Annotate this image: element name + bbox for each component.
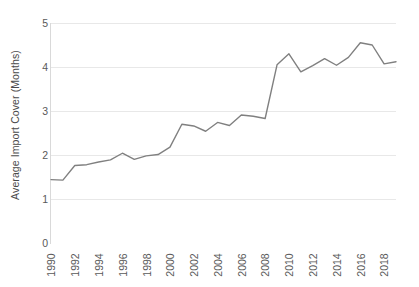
y-axis-tick-label: 3 bbox=[26, 105, 48, 117]
x-axis-tick-label: 1990 bbox=[45, 253, 57, 276]
x-axis-tick: 2006 bbox=[234, 246, 248, 286]
x-axis-tick-label: 2012 bbox=[307, 253, 319, 276]
x-axis-tick-label: 2008 bbox=[259, 253, 271, 276]
x-axis-tick: 1994 bbox=[92, 246, 106, 286]
x-axis-tick-label: 2004 bbox=[212, 253, 224, 276]
x-axis-tick-label: 2014 bbox=[331, 253, 343, 276]
x-axis-tick: 1996 bbox=[115, 246, 129, 286]
x-axis-tick-label: 2000 bbox=[164, 253, 176, 276]
x-axis-tick-label: 2006 bbox=[235, 253, 247, 276]
y-axis-tick-label: 5 bbox=[26, 17, 48, 29]
y-axis-tick-labels: 012345 bbox=[26, 0, 48, 260]
x-axis-tick-label: 2018 bbox=[378, 253, 390, 276]
y-axis-title-label: Average Import Cover (Months) bbox=[9, 50, 21, 200]
x-axis-tick: 2000 bbox=[163, 246, 177, 286]
x-axis-tick-label: 1996 bbox=[116, 253, 128, 276]
y-axis-tick-label: 2 bbox=[26, 149, 48, 161]
x-axis-tick: 2008 bbox=[258, 246, 272, 286]
x-axis-tick-label: 2002 bbox=[188, 253, 200, 276]
x-axis-tick-label: 1994 bbox=[93, 253, 105, 276]
y-axis-tick-label: 4 bbox=[26, 61, 48, 73]
x-axis-tick: 2010 bbox=[282, 246, 296, 286]
x-axis-tick: 2004 bbox=[211, 246, 225, 286]
line-chart: Average Import Cover (Months) 012345 199… bbox=[0, 0, 419, 287]
series-polyline bbox=[51, 43, 396, 180]
x-axis-tick: 2016 bbox=[353, 246, 367, 286]
x-axis-tick-labels: 1990199219941996199820002002200420062008… bbox=[51, 246, 411, 287]
x-axis-tick: 2018 bbox=[377, 246, 391, 286]
x-axis-tick: 2014 bbox=[330, 246, 344, 286]
x-axis-tick-label: 1998 bbox=[140, 253, 152, 276]
x-axis-tick: 2012 bbox=[306, 246, 320, 286]
plot-area bbox=[51, 23, 396, 243]
x-axis-tick: 1992 bbox=[68, 246, 82, 286]
x-axis-tick-label: 2016 bbox=[354, 253, 366, 276]
x-axis-tick-label: 1992 bbox=[69, 253, 81, 276]
x-axis-tick-label: 2010 bbox=[283, 253, 295, 276]
x-axis-tick: 2002 bbox=[187, 246, 201, 286]
x-axis-tick: 1990 bbox=[44, 246, 58, 286]
x-axis-tick: 1998 bbox=[139, 246, 153, 286]
data-series-line bbox=[51, 23, 396, 243]
y-axis-tick-label: 1 bbox=[26, 193, 48, 205]
